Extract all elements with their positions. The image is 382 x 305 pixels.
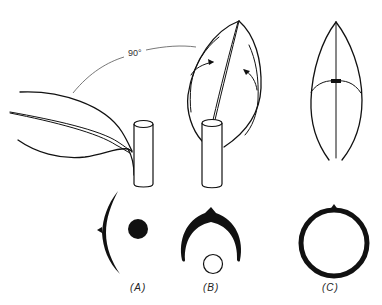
- stem-section-dot: [128, 219, 148, 239]
- leaf-c-left-margin: [311, 22, 336, 160]
- leaf-folding-diagram: 90°: [0, 0, 382, 305]
- label-a: (A): [130, 282, 146, 293]
- joint-marker: [331, 79, 341, 83]
- angle-annotation: 90°: [73, 46, 196, 93]
- stem-section-circle: [204, 255, 223, 274]
- stem-b: [202, 123, 222, 188]
- closed-ring: [301, 210, 367, 276]
- stem-a: [134, 124, 153, 187]
- cross-section-b: [181, 207, 241, 274]
- label-b: (B): [203, 282, 219, 293]
- panel-a-leaf: [10, 92, 153, 187]
- cross-section-c: [301, 204, 367, 276]
- leaf-c-right-margin: [336, 22, 362, 160]
- panel-c-leaf: [311, 22, 362, 160]
- angle-label: 90°: [128, 48, 142, 58]
- cross-section-a: [97, 191, 148, 274]
- panel-b-leaf: [188, 21, 261, 188]
- angle-arc-left: [73, 57, 124, 93]
- label-c: (C): [322, 282, 339, 293]
- angle-arc-right: [146, 46, 196, 50]
